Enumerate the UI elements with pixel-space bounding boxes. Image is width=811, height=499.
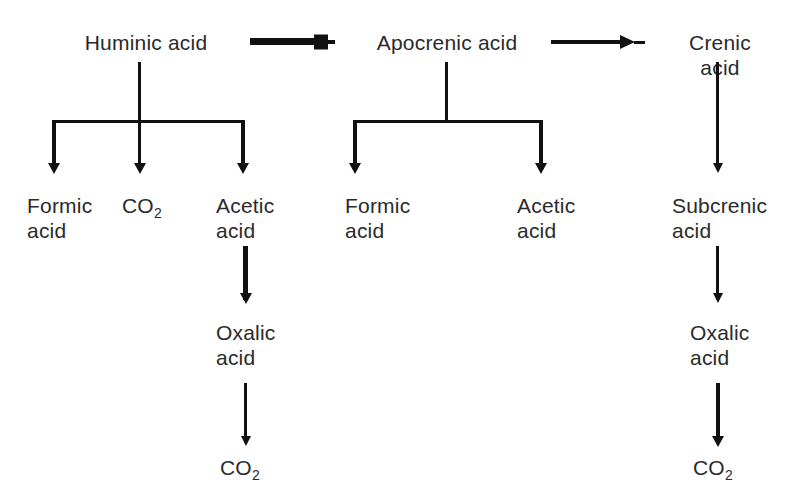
co2-bottom-left-subscript: 2 (252, 467, 260, 483)
co2-huminic-branch-subscript: 2 (154, 205, 162, 221)
arrowhead-huminic-co2 (134, 163, 146, 174)
arrow-oxalic-to-co2-left-shaft (244, 383, 247, 443)
arrow-acetic-to-oxalic-shaft (243, 246, 248, 300)
node-subcrenic-acid: Subcrenic acid (672, 193, 767, 243)
arrowhead-huminic-formic (48, 163, 60, 174)
arrow-crenic-to-subcrenic-shaft (716, 62, 719, 166)
arrowhead-crenic-to-subcrenic (713, 163, 723, 173)
node-co2-bottom-left: CO2 (220, 455, 260, 480)
node-apocrenic-acid: Apocrenic acid (377, 30, 518, 55)
node-co2-huminic-branch: CO2 (122, 193, 162, 218)
branch-stem-apocrenic (445, 62, 448, 120)
branch-drop-huminic-formic (52, 120, 56, 166)
arrowhead-apocrenic-acetic (535, 163, 547, 174)
node-co2-bottom-right: CO2 (693, 455, 733, 480)
co2-bottom-right-subscript: 2 (725, 467, 733, 483)
branch-drop-huminic-acetic (241, 120, 245, 166)
branch-drop-apocrenic-formic (353, 120, 357, 166)
branch-bar-huminic (52, 120, 244, 123)
node-acetic-acid-left: Acetic acid (216, 193, 274, 243)
arrow-apocrenic-to-crenic-shaft (551, 40, 627, 44)
node-formic-acid-mid: Formic acid (345, 193, 410, 243)
arrowhead-subcrenic-to-oxalic (713, 293, 723, 303)
co2-bottom-left-formula: CO (220, 456, 252, 479)
arrow-huminic-to-apocrenic-tip (326, 40, 335, 44)
node-crenic-acid: Crenic acid (675, 30, 766, 80)
branch-bar-apocrenic (353, 120, 543, 123)
node-oxalic-acid-right: Oxalic acid (690, 320, 750, 370)
node-formic-acid-left: Formic acid (27, 193, 92, 243)
arrow-apocrenic-to-crenic-head (620, 35, 635, 49)
co2-bottom-right-formula: CO (693, 456, 725, 479)
arrowhead-oxalic-to-co2-right (712, 436, 724, 447)
arrow-apocrenic-to-crenic-tip (634, 41, 645, 44)
node-huminic-acid: Huminic acid (85, 30, 208, 55)
arrow-oxalic-to-co2-right-shaft (716, 383, 720, 443)
co2-huminic-branch-formula: CO (122, 194, 154, 217)
arrowhead-acetic-to-oxalic (240, 293, 252, 304)
branch-stem-huminic (138, 62, 141, 166)
degradation-pathway-diagram: Huminic acid Apocrenic acid Crenic acid … (0, 0, 811, 499)
node-oxalic-acid-left: Oxalic acid (216, 320, 276, 370)
branch-drop-apocrenic-acetic (539, 120, 543, 166)
node-acetic-acid-mid: Acetic acid (517, 193, 575, 243)
arrowhead-apocrenic-formic (349, 163, 361, 174)
arrowhead-huminic-acetic (237, 163, 249, 174)
arrow-huminic-to-apocrenic-shaft (250, 38, 318, 45)
arrowhead-oxalic-to-co2-left (241, 436, 251, 446)
arrow-subcrenic-to-oxalic-shaft (716, 246, 719, 300)
